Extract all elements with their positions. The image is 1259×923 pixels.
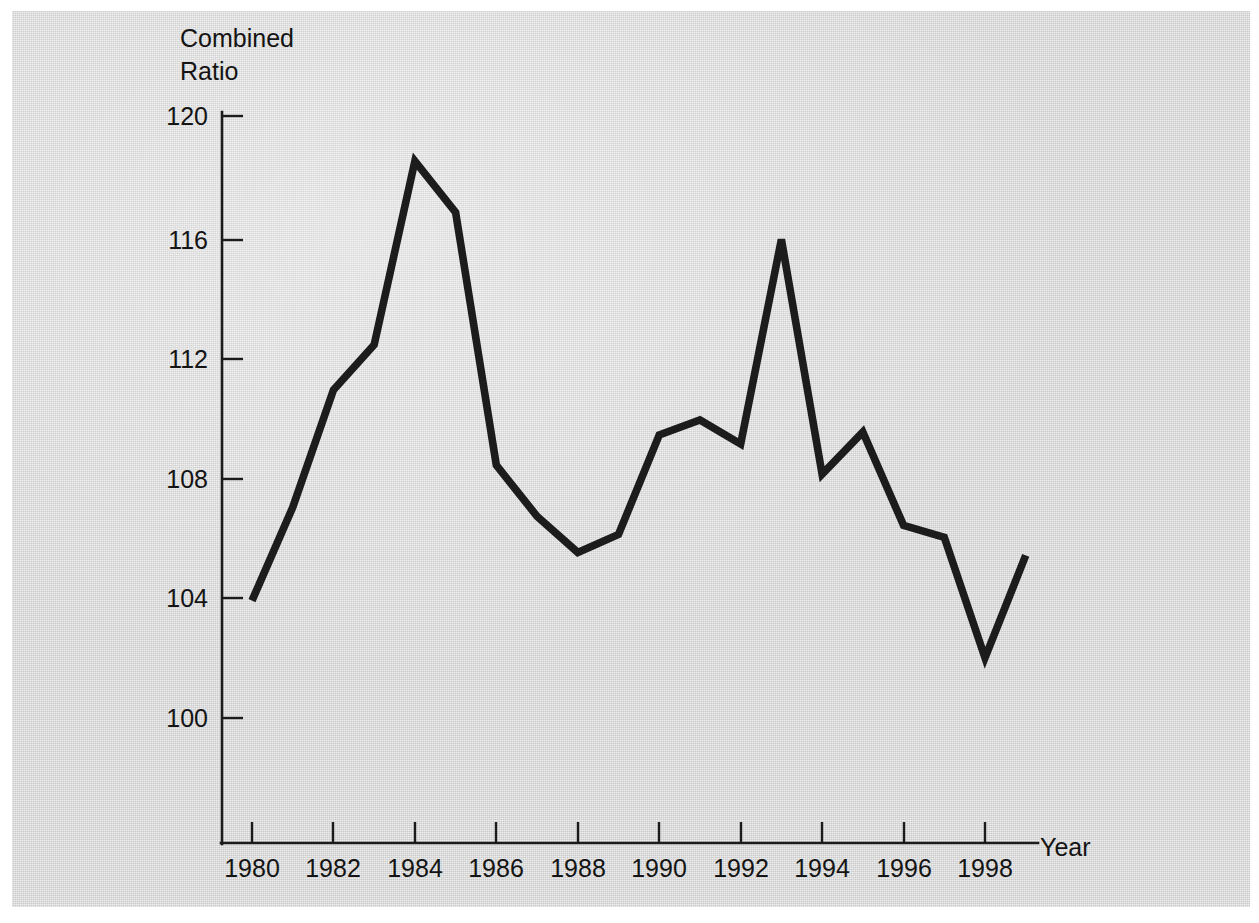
data-series-combined-ratio: [252, 161, 1026, 658]
x-tick-label-1980: 1980: [224, 854, 280, 882]
y-tick-label-116: 116: [168, 226, 208, 254]
y-axis-tick-labels: 120 116 112 108 104 100: [166, 102, 208, 732]
x-tick-label-1994: 1994: [794, 854, 850, 882]
x-tick-label-1986: 1986: [468, 854, 524, 882]
x-tick-label-1984: 1984: [387, 854, 443, 882]
y-axis-title-line1: Combined: [180, 24, 294, 52]
y-axis-title-line2: Ratio: [180, 57, 238, 85]
x-axis-ticks: [252, 822, 985, 843]
y-axis-ticks: [222, 116, 243, 718]
x-tick-label-1982: 1982: [305, 854, 361, 882]
y-tick-label-104: 104: [166, 584, 208, 612]
y-tick-label-112: 112: [168, 345, 208, 373]
x-tick-label-1988: 1988: [550, 854, 606, 882]
x-tick-label-1998: 1998: [957, 854, 1013, 882]
x-tick-label-1990: 1990: [631, 854, 687, 882]
x-axis-title: Year: [1040, 833, 1091, 861]
x-axis-tick-labels: 1980 1982 1984 1986 1988 1990 1992 1994 …: [224, 854, 1013, 882]
y-tick-label-100: 100: [166, 704, 208, 732]
y-tick-label-120: 120: [166, 102, 208, 130]
line-chart-plot: 120 116 112 108 104 100 1980 1982 1984 1…: [0, 0, 1259, 923]
y-tick-label-108: 108: [166, 465, 208, 493]
chart-figure: 120 116 112 108 104 100 1980 1982 1984 1…: [0, 0, 1259, 923]
x-tick-label-1992: 1992: [713, 854, 769, 882]
axes-group: [221, 112, 1038, 844]
x-tick-label-1996: 1996: [876, 854, 932, 882]
